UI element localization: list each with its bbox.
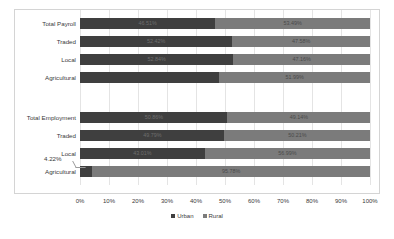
bar-row: 51.99%	[80, 72, 370, 83]
legend-label-urban: Urban	[177, 213, 193, 220]
value-label-rural: 95.78%	[222, 166, 240, 177]
value-label-rural: 50.21%	[288, 130, 306, 141]
legend-swatch-rural	[203, 214, 207, 218]
value-label-rural: 47.58%	[292, 36, 310, 47]
category-label: Total Payroll	[0, 18, 76, 29]
stacked-bar-chart: 46.51%53.49%52.42%47.58%52.84%47.16%51.9…	[0, 0, 394, 239]
bar-row: 52.42%47.58%	[80, 36, 370, 47]
x-axis-tick: 90%	[328, 196, 354, 206]
category-label: Total Employment	[0, 112, 76, 123]
x-axis-tick: 0%	[67, 196, 93, 206]
category-label: Agricultural	[0, 72, 76, 83]
x-axis-tick: 60%	[241, 196, 267, 206]
x-axis-tick: 50%	[212, 196, 238, 206]
legend-item-rural[interactable]: Rural	[203, 213, 223, 220]
value-label-urban: 50.86%	[145, 112, 163, 123]
value-label-rural: 49.14%	[290, 112, 308, 123]
category-label: Local	[0, 148, 76, 159]
category-label: Traded	[0, 36, 76, 47]
x-axis-tick: 20%	[125, 196, 151, 206]
x-axis-tick: 70%	[270, 196, 296, 206]
legend-swatch-urban	[171, 214, 175, 218]
value-label-urban: 46.51%	[138, 18, 156, 29]
bar-row: 43.01%56.99%	[80, 148, 370, 159]
category-label: Agricultural	[0, 166, 76, 177]
gridline	[370, 10, 371, 185]
value-label-rural: 53.49%	[283, 18, 301, 29]
value-label-rural: 51.99%	[286, 72, 304, 83]
chart-legend: Urban Rural	[0, 210, 394, 222]
bar-row: 50.86%49.14%	[80, 112, 370, 123]
value-label-urban: 43.01%	[133, 148, 151, 159]
value-label-urban: 49.79%	[143, 130, 161, 141]
value-label-rural: 47.16%	[293, 54, 311, 65]
value-label-rural: 56.99%	[278, 148, 296, 159]
x-axis-tick: 40%	[183, 196, 209, 206]
bar-segment-urban[interactable]	[80, 72, 219, 83]
bar-row: 49.79%50.21%	[80, 130, 370, 141]
bar-row: 46.51%53.49%	[80, 18, 370, 29]
callout-label-4-22: 4.22%	[44, 155, 62, 162]
bar-row: 52.84%47.16%	[80, 54, 370, 65]
x-axis-tick: 100%	[357, 196, 383, 206]
legend-item-urban[interactable]: Urban	[171, 213, 193, 220]
x-axis-tick: 80%	[299, 196, 325, 206]
category-label: Traded	[0, 130, 76, 141]
category-label: Local	[0, 54, 76, 65]
legend-label-rural: Rural	[209, 213, 223, 220]
x-axis-tick: 10%	[96, 196, 122, 206]
x-axis-ticks: 0%10%20%30%40%50%60%70%80%90%100%	[80, 196, 370, 206]
bar-row: 95.78%	[80, 166, 370, 177]
x-axis-tick: 30%	[154, 196, 180, 206]
value-label-urban: 52.42%	[147, 36, 165, 47]
value-label-urban: 52.84%	[148, 54, 166, 65]
